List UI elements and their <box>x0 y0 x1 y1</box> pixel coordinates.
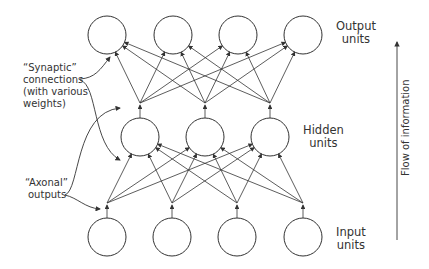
connection <box>115 52 140 103</box>
axonal-arrow-1 <box>65 108 120 195</box>
input-units-label: Input units <box>336 226 366 252</box>
connection <box>107 154 132 203</box>
synaptic-label: “Synaptic” connections (with various wei… <box>23 62 88 110</box>
input-unit <box>284 218 322 256</box>
connection <box>278 154 303 203</box>
connection <box>205 46 287 103</box>
output-unit <box>154 16 192 54</box>
connection <box>172 148 254 203</box>
axonal-label: “Axonal” outputs <box>25 177 68 201</box>
hidden-units-label: Hidden units <box>303 124 344 150</box>
output-unit <box>284 16 322 54</box>
axonal-arrow-2 <box>65 195 100 209</box>
flow-label: Flow of information <box>400 79 411 176</box>
connection <box>246 52 270 103</box>
connection <box>140 46 222 103</box>
output-units-label: Output units <box>336 20 376 46</box>
hidden-unit <box>186 118 224 156</box>
hidden-unit <box>121 118 159 156</box>
hidden-unit <box>251 118 289 156</box>
connection <box>140 52 165 103</box>
output-unit <box>88 16 126 54</box>
input-unit <box>153 218 191 256</box>
connection <box>107 148 189 203</box>
output-unit <box>219 16 257 54</box>
input-unit <box>218 218 256 256</box>
input-unit <box>88 218 126 256</box>
connection <box>270 52 295 103</box>
